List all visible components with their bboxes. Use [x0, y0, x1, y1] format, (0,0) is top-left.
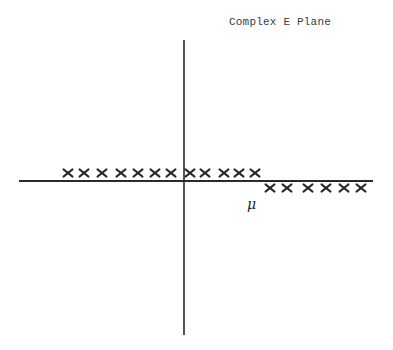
cross-mark-icon — [322, 184, 331, 191]
cross-mark-icon — [283, 184, 292, 191]
diagram-title: Complex E Plane — [229, 16, 331, 28]
cross-mark-icon — [220, 169, 229, 176]
cross-mark-icon — [167, 169, 176, 176]
cross-mark-icon — [235, 169, 244, 176]
cross-mark-icon — [134, 169, 143, 176]
cross-mark-icon — [357, 184, 366, 191]
cross-mark-icon — [266, 184, 275, 191]
cross-mark-icon — [340, 184, 349, 191]
cross-mark-icon — [201, 169, 210, 176]
cross-mark-icon — [117, 169, 126, 176]
complex-plane-diagram — [0, 0, 393, 350]
cross-mark-icon — [98, 169, 107, 176]
cross-mark-icon — [80, 169, 89, 176]
cross-mark-icon — [304, 184, 313, 191]
cross-mark-icon — [186, 169, 195, 176]
cross-mark-icon — [151, 169, 160, 176]
cross-mark-icon — [251, 169, 260, 176]
mu-label: μ — [247, 196, 256, 212]
cross-mark-icon — [64, 169, 73, 176]
